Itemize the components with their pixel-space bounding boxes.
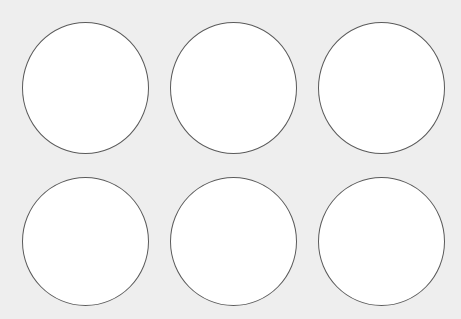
round-label-r2-c3 <box>318 177 445 306</box>
round-label-r2-c2 <box>170 177 297 306</box>
round-label-r1-c2 <box>170 22 297 154</box>
round-label-r1-c3 <box>318 22 445 154</box>
round-label-r2-c1 <box>22 177 149 306</box>
round-label-r1-c1 <box>22 22 149 154</box>
label-sheet <box>0 0 461 319</box>
